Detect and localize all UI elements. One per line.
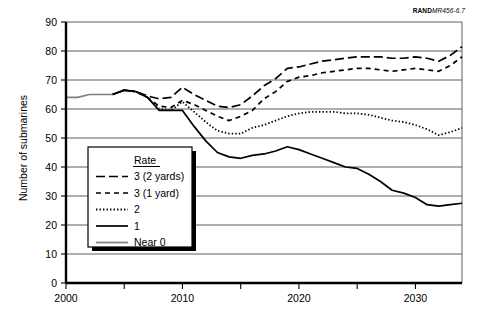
legend-entry-label: 3 (1 yard) bbox=[134, 187, 179, 199]
chart-figure: RANDMR456-6.7 Number of submarines 01020… bbox=[0, 0, 487, 322]
y-tick-label: 50 bbox=[45, 132, 57, 144]
series-line bbox=[113, 90, 462, 135]
y-tick-label: 20 bbox=[45, 219, 57, 231]
line-chart-plot: 0102030405060708090 2000201020202030 Rat… bbox=[0, 0, 487, 322]
y-tick-label: 80 bbox=[45, 45, 57, 57]
x-tick-label: 2030 bbox=[404, 292, 428, 304]
y-axis-title: Number of submarines bbox=[17, 48, 29, 248]
legend-entry-label: 3 (2 yards) bbox=[134, 170, 184, 182]
x-tick-label: 2000 bbox=[54, 292, 78, 304]
y-tick-label: 10 bbox=[45, 248, 57, 260]
rand-document-id: RANDMR456-6.7 bbox=[413, 7, 465, 14]
y-tick-label: 40 bbox=[45, 161, 57, 173]
legend-entry-label: 1 bbox=[134, 220, 140, 232]
y-tick-label: 60 bbox=[45, 103, 57, 115]
legend-title: Rate bbox=[134, 154, 156, 166]
y-tick-label: 30 bbox=[45, 190, 57, 202]
x-tick-label: 2020 bbox=[287, 292, 311, 304]
y-tick-label: 70 bbox=[45, 74, 57, 86]
y-tick-label: 90 bbox=[45, 16, 57, 28]
y-tick-label: 0 bbox=[51, 277, 57, 289]
legend-entry-label: Near 0 bbox=[134, 236, 166, 248]
series-line bbox=[66, 95, 113, 98]
x-tick-label: 2010 bbox=[171, 292, 195, 304]
series-line bbox=[113, 47, 462, 108]
x-tick-labels-group: 2000201020202030 bbox=[54, 292, 427, 304]
rand-code-text: MR456-6.7 bbox=[432, 7, 465, 14]
legend-entry-label: 2 bbox=[134, 203, 140, 215]
rand-brand-text: RAND bbox=[413, 7, 432, 14]
chart-legend: Rate3 (2 yards)3 (1 yard)21Near 0 bbox=[88, 147, 196, 251]
y-tick-labels-group: 0102030405060708090 bbox=[45, 16, 57, 289]
